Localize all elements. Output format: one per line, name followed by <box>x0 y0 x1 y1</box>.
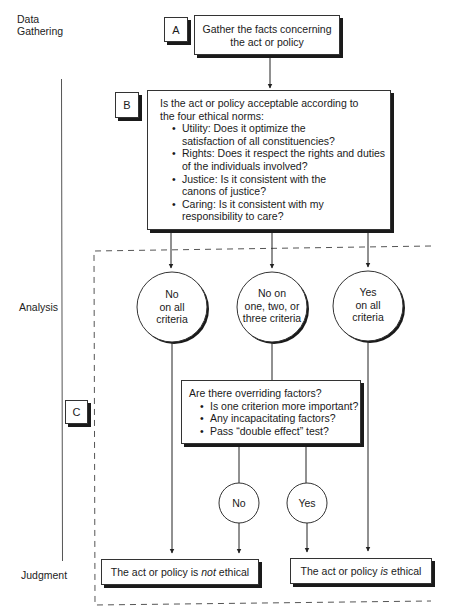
stage-timeline-line <box>62 79 63 561</box>
judgment-text: ethical <box>388 565 421 577</box>
norm-line: satisfaction of all constituencies? <box>182 135 390 148</box>
outcome-line: Yes <box>352 286 384 299</box>
override-no-text: No <box>219 483 259 523</box>
stage-label-line: Gathering <box>17 25 63 37</box>
outcome-line: one, two, or <box>243 300 301 313</box>
norm-rights: Rights: Does it respect the rights and d… <box>182 147 390 172</box>
outcome-line: on all <box>156 301 188 314</box>
judgment-emphasis: not <box>201 566 216 578</box>
outcome-line: criteria <box>156 313 188 326</box>
norm-line: Utility: Does it optimize the <box>182 122 390 135</box>
override-factor: Is one criterion more important? <box>210 400 360 413</box>
judgment-is-ethical-box: The act or policy is ethical <box>290 558 432 584</box>
step-a-tag-label: A <box>172 24 179 36</box>
override-factor: Any incapacitating factors? <box>210 412 360 425</box>
step-b-box: Is the act or policy acceptable accordin… <box>147 90 391 230</box>
outcome-line: on all <box>352 299 384 312</box>
outcome-yes-all-text: Yes on all criteria <box>333 270 403 340</box>
step-b-tag-label: B <box>123 99 130 111</box>
step-c-tag-label: C <box>73 406 81 418</box>
norm-utility: Utility: Does it optimize the satisfacti… <box>182 122 390 147</box>
step-b-intro-line: Is the act or policy acceptable accordin… <box>160 97 390 110</box>
outcome-no-some-text: No on one, two, or three criteria <box>234 271 310 341</box>
step-a-line: the act or policy <box>195 36 339 49</box>
override-yes-text: Yes <box>287 483 327 523</box>
step-a-box: Gather the facts concerning the act or p… <box>194 15 340 55</box>
norm-line: Caring: Is it consistent with my <box>182 198 390 211</box>
judgment-not-ethical-box: The act or policy is not ethical <box>101 559 259 585</box>
outcome-line: three criteria <box>243 312 301 325</box>
norm-line: of the individuals involved? <box>182 160 390 173</box>
override-factor: Pass “double effect” test? <box>210 425 360 438</box>
norm-line: Justice: Is it consistent with the <box>182 173 390 186</box>
stage-label-analysis: Analysis <box>19 301 58 313</box>
step-c-box: Are there overriding factors? Is one cri… <box>181 380 361 444</box>
judgment-emphasis: is <box>381 565 389 577</box>
judgment-text: The act or policy is <box>111 566 201 578</box>
step-b-intro-line: the four ethical norms: <box>160 110 390 123</box>
ethical-norms-list: Utility: Does it optimize the satisfacti… <box>160 122 390 223</box>
step-a-line: Gather the facts concerning <box>195 23 339 36</box>
norm-line: responsibility to care? <box>182 210 390 223</box>
step-b-tag: B <box>115 92 139 118</box>
step-c-tag: C <box>65 400 88 424</box>
stage-label-judgment: Judgment <box>21 569 67 581</box>
stage-label-data-gathering: Data Gathering <box>17 13 63 37</box>
step-a-tag: A <box>164 17 188 42</box>
stage-label-line: Data <box>17 13 63 25</box>
outcome-line: criteria <box>352 311 384 324</box>
override-question: Are there overriding factors? <box>189 387 360 400</box>
norm-line: canons of justice? <box>182 185 390 198</box>
outcome-no-all-text: No on all criteria <box>137 272 207 342</box>
norm-caring: Caring: Is it consistent with my respons… <box>182 198 390 223</box>
norm-justice: Justice: Is it consistent with the canon… <box>182 173 390 198</box>
judgment-text: The act or policy <box>301 565 381 577</box>
outcome-line: No on <box>243 287 301 300</box>
outcome-line: No <box>156 288 188 301</box>
judgment-text: ethical <box>216 566 249 578</box>
override-factors-list: Is one criterion more important? Any inc… <box>189 400 360 438</box>
norm-line: Rights: Does it respect the rights and d… <box>182 147 390 160</box>
